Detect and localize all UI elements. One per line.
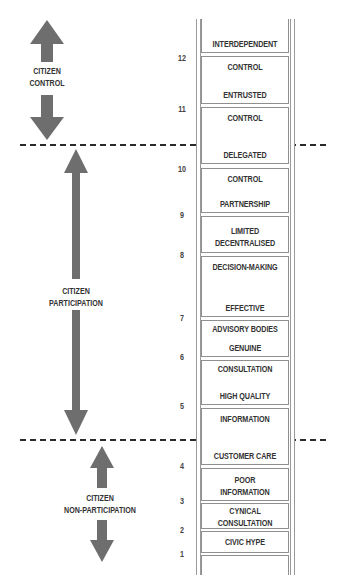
rung-label: INFORMATION xyxy=(208,414,282,424)
rung-number-9: 9 xyxy=(176,210,189,220)
rung-label: PARTNERSHIP xyxy=(208,199,282,209)
rung-box: CYNICAL CONSULTATION xyxy=(201,503,289,529)
rung-label: INTERDEPENDENT xyxy=(208,39,282,49)
rung-label: POOR xyxy=(208,475,282,485)
rung-label: DECISION-MAKING xyxy=(208,262,282,272)
rung-number-11: 11 xyxy=(176,104,189,114)
rung-box: CONSULTATION HIGH QUALITY xyxy=(201,360,289,405)
rung-label: CONTROL xyxy=(208,174,282,184)
group-label-line: PARTICIPATION xyxy=(41,297,111,309)
rung-label: LIMITED xyxy=(208,226,282,236)
rung-box-empty xyxy=(201,555,289,575)
rung-number-2: 2 xyxy=(176,525,189,535)
rung-label: CONTROL xyxy=(208,113,282,123)
arrow-up-icon xyxy=(64,149,88,279)
rung-number-12: 12 xyxy=(176,53,189,63)
rung-label: INFORMATION xyxy=(208,487,282,497)
rung-box: CONTROL ENTRUSTED xyxy=(201,56,289,104)
ladder-rail-right xyxy=(290,19,295,575)
rung-number-4: 4 xyxy=(176,461,189,471)
rung-label: GENUINE xyxy=(208,343,282,353)
group-label-line: CITIZEN xyxy=(41,285,111,297)
rung-number-3: 3 xyxy=(176,496,189,506)
rung-label: DECENTRALISED xyxy=(208,238,282,248)
rung-box: INTERDEPENDENT xyxy=(201,19,289,53)
rung-label: HIGH QUALITY xyxy=(208,391,282,401)
rung-number-1: 1 xyxy=(176,549,189,559)
rung-box: ADVISORY BODIES GENUINE xyxy=(201,320,289,357)
arrow-down-icon xyxy=(90,520,114,562)
rung-label: CONSULTATION xyxy=(208,364,282,374)
rung-label: CYNICAL xyxy=(208,506,282,516)
arrow-up-icon xyxy=(30,20,64,62)
rung-number-7: 7 xyxy=(176,313,189,323)
rung-label: CONSULTATION xyxy=(208,518,282,528)
group-label-citizen-control: CITIZEN CONTROL xyxy=(17,65,77,89)
rung-label: EFFECTIVE xyxy=(208,303,282,313)
rung-label: ADVISORY BODIES xyxy=(208,324,282,334)
group-label-citizen-non-participation: CITIZEN NON-PARTICIPATION xyxy=(62,492,139,516)
group-label-line: CONTROL xyxy=(17,77,77,89)
group-label-line: CITIZEN xyxy=(17,65,77,77)
rung-label: DELEGATED xyxy=(208,150,282,160)
arrow-down-icon xyxy=(30,95,64,140)
arrow-up-icon xyxy=(90,446,114,488)
rung-box: CIVIC HYPE xyxy=(201,531,289,553)
group-label-citizen-participation: CITIZEN PARTICIPATION xyxy=(41,285,111,309)
group-label-line: CITIZEN xyxy=(62,492,139,504)
rung-number-8: 8 xyxy=(176,250,189,260)
rung-number-10: 10 xyxy=(176,164,189,174)
rung-box: INFORMATION CUSTOMER CARE xyxy=(201,408,289,465)
rung-box: LIMITED DECENTRALISED xyxy=(201,216,289,253)
rung-label: ENTRUSTED xyxy=(208,90,282,100)
group-label-line: NON-PARTICIPATION xyxy=(62,504,139,516)
rung-label: CIVIC HYPE xyxy=(208,537,282,547)
rung-label: CONTROL xyxy=(208,62,282,72)
arrow-down-icon xyxy=(64,310,88,435)
rung-box: CONTROL PARTNERSHIP xyxy=(201,168,289,213)
rung-label: CUSTOMER CARE xyxy=(208,451,282,461)
rung-number-5: 5 xyxy=(176,401,189,411)
rung-box: CONTROL DELEGATED xyxy=(201,107,289,164)
rung-number-6: 6 xyxy=(176,352,189,362)
rung-box: DECISION-MAKING EFFECTIVE xyxy=(201,256,289,317)
rung-box: POOR INFORMATION xyxy=(201,468,289,501)
